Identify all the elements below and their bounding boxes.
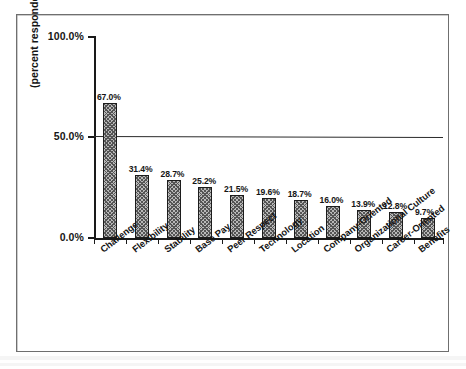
y-tick-label-100: 100.0% (26, 30, 84, 42)
x-tick-mark (94, 238, 95, 244)
x-tick-mark (286, 238, 287, 244)
x-tick-mark (158, 238, 159, 244)
x-tick-mark (443, 238, 444, 244)
y-tick-mark-100 (88, 36, 95, 38)
x-tick-mark (382, 238, 383, 244)
bar (103, 103, 117, 238)
bar-value-label: 67.0% (97, 92, 121, 102)
bar-chart: (percent responded) 100.0% 50.0% 0.0% 67… (0, 0, 466, 369)
bar-value-label: 28.7% (161, 169, 185, 179)
x-tick-mark (414, 238, 415, 244)
bar-value-label: 21.5% (224, 184, 248, 194)
y-tick-label-50: 50.0% (26, 130, 84, 142)
bar-value-label: 31.4% (129, 164, 153, 174)
bar-value-label: 16.0% (320, 195, 344, 205)
y-tick-label-0: 0.0% (26, 231, 84, 243)
x-tick-mark (190, 238, 191, 244)
bar (198, 187, 212, 238)
x-tick-mark (318, 238, 319, 244)
x-tick-mark (350, 238, 351, 244)
bar-value-label: 19.6% (256, 187, 280, 197)
bar-value-label: 18.7% (288, 189, 312, 199)
x-tick-mark (222, 238, 223, 244)
x-tick-mark (126, 238, 127, 244)
bar-value-label: 25.2% (192, 176, 216, 186)
reference-line-50 (94, 136, 443, 138)
x-tick-mark (254, 238, 255, 244)
scanned-page: (percent responded) 100.0% 50.0% 0.0% 67… (0, 0, 466, 369)
y-axis-title: (percent responded) (28, 0, 40, 88)
